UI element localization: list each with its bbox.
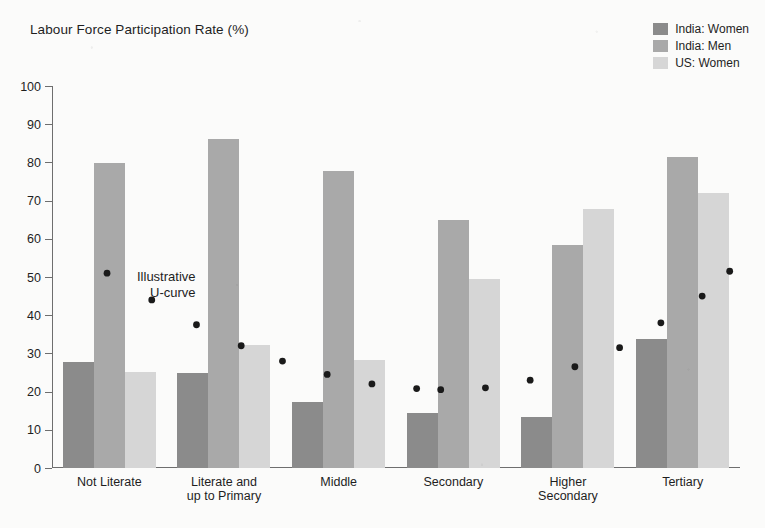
y-axis-tick-label: 100 <box>20 80 41 94</box>
bar-group: Tertiary <box>625 86 740 468</box>
y-axis-tick: 50 <box>45 277 52 278</box>
chart-page: Labour Force Participation Rate (%) Indi… <box>0 0 765 528</box>
bar <box>125 372 156 468</box>
bar <box>552 245 583 468</box>
bar <box>354 360 385 468</box>
bar <box>239 345 270 468</box>
plot-area: 1009080706050403020100 Not LiterateLiter… <box>52 86 740 468</box>
legend-label: US: Women <box>675 56 739 70</box>
y-axis-tick: 60 <box>45 239 52 240</box>
y-axis-tick: 80 <box>45 162 52 163</box>
bar-group: Secondary <box>396 86 511 468</box>
y-axis-tick-label: 80 <box>27 156 41 170</box>
bar <box>177 373 208 468</box>
legend-item: India: Men <box>653 39 749 53</box>
legend-swatch-icon <box>653 23 668 35</box>
y-axis-tick: 40 <box>45 315 52 316</box>
y-axis-tick-label: 60 <box>27 232 41 246</box>
y-axis-tick-label: 10 <box>27 423 41 437</box>
y-axis-tick: 20 <box>45 392 52 393</box>
bar <box>94 163 125 468</box>
bar <box>63 362 94 468</box>
y-axis-tick: 10 <box>45 430 52 431</box>
y-axis-tick: 0 <box>45 468 52 469</box>
y-axis-tick-label: 50 <box>27 271 41 285</box>
bar-group: HigherSecondary <box>511 86 626 468</box>
y-axis-tick-label: 30 <box>27 347 41 361</box>
chart-legend: India: WomenIndia: MenUS: Women <box>653 22 749 70</box>
y-axis-tick-label: 20 <box>27 385 41 399</box>
legend-item: India: Women <box>653 22 749 36</box>
bar <box>407 413 438 468</box>
bar <box>636 339 667 468</box>
chart-title: Labour Force Participation Rate (%) <box>30 22 249 37</box>
y-axis-tick: 90 <box>45 124 52 125</box>
y-axis-tick: 100 <box>45 86 52 87</box>
bar <box>323 171 354 468</box>
bar <box>521 417 552 468</box>
legend-label: India: Women <box>675 22 749 36</box>
u-curve-annotation: IllustrativeU-curve <box>137 269 196 301</box>
y-axis-tick-label: 70 <box>27 194 41 208</box>
y-axis-tick-label: 40 <box>27 309 41 323</box>
bar <box>292 402 323 468</box>
legend-swatch-icon <box>653 57 668 69</box>
bar <box>583 209 614 468</box>
x-axis-category-label: Tertiary <box>608 475 758 489</box>
bar <box>667 157 698 468</box>
legend-swatch-icon <box>653 40 668 52</box>
legend-item: US: Women <box>653 56 749 70</box>
y-axis-tick-label: 0 <box>34 462 41 476</box>
bar <box>698 193 729 468</box>
y-axis-tick-label: 90 <box>27 118 41 132</box>
legend-label: India: Men <box>675 39 731 53</box>
bar <box>469 279 500 468</box>
bar <box>208 139 239 468</box>
bar <box>438 220 469 468</box>
bar-group: Middle <box>281 86 396 468</box>
y-axis-tick: 30 <box>45 353 52 354</box>
y-axis-tick: 70 <box>45 201 52 202</box>
